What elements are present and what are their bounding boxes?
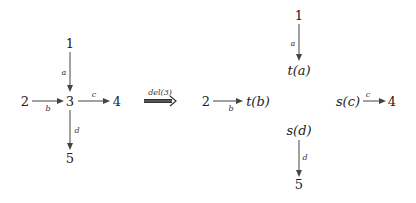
edge-c: c bbox=[78, 90, 110, 104]
node-t-b: t(b) bbox=[246, 94, 270, 109]
right-graph: 1 t(a) 2 t(b) s(c) 4 s(d) 5 a b c d bbox=[202, 8, 396, 192]
arrowhead-icon bbox=[103, 98, 110, 104]
arrowhead-icon bbox=[236, 98, 243, 104]
left-graph: 1 2 3 4 5 a b c d bbox=[21, 36, 121, 166]
node-s-d: s(d) bbox=[286, 123, 311, 138]
arrowhead-icon bbox=[296, 54, 302, 61]
node-2: 2 bbox=[21, 94, 29, 109]
arrowhead-icon bbox=[67, 85, 73, 92]
graph-diagram: 1 2 3 4 5 a b c d bbox=[0, 0, 416, 203]
edge-d: d bbox=[296, 140, 308, 177]
edge-a: a bbox=[291, 24, 302, 61]
edge-c: c bbox=[363, 90, 386, 104]
edge-label-c: c bbox=[92, 90, 97, 99]
arrowhead-icon bbox=[296, 170, 302, 177]
node-4: 4 bbox=[388, 94, 396, 109]
node-5: 5 bbox=[295, 177, 303, 192]
node-4: 4 bbox=[113, 94, 121, 109]
node-5: 5 bbox=[66, 151, 74, 166]
edge-label-d: d bbox=[302, 153, 307, 162]
transform-label: del(3) bbox=[148, 88, 172, 97]
edge-label-b: b bbox=[228, 104, 233, 113]
edge-label-d: d bbox=[74, 126, 79, 135]
edge-b: b bbox=[32, 98, 64, 113]
arrowhead-icon bbox=[379, 98, 386, 104]
edge-b: b bbox=[213, 98, 243, 113]
node-1: 1 bbox=[66, 36, 74, 51]
arrowhead-icon bbox=[57, 98, 64, 104]
edge-label-a: a bbox=[62, 68, 67, 77]
edge-d: d bbox=[67, 110, 80, 150]
edge-a: a bbox=[62, 52, 73, 92]
transform-arrow: del(3) bbox=[144, 88, 176, 106]
edge-label-a: a bbox=[291, 39, 296, 48]
edge-label-c: c bbox=[366, 90, 371, 99]
node-t-a: t(a) bbox=[287, 63, 310, 78]
arrowhead-icon bbox=[67, 143, 73, 150]
edge-label-b: b bbox=[45, 104, 50, 113]
node-1: 1 bbox=[295, 8, 303, 23]
node-3: 3 bbox=[66, 94, 74, 109]
node-s-c: s(c) bbox=[336, 94, 360, 109]
node-2: 2 bbox=[202, 94, 210, 109]
